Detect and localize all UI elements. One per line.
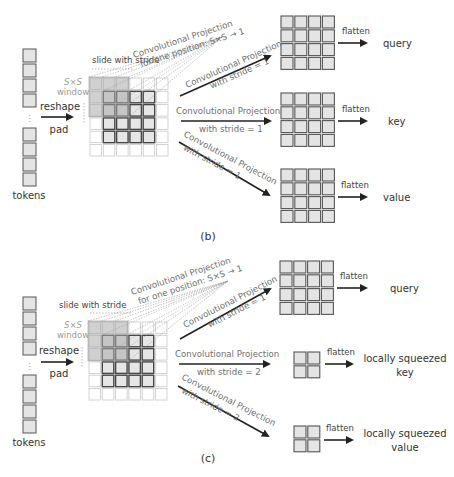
output-cell — [295, 93, 307, 105]
padding-cell — [156, 389, 168, 401]
feature-cell — [129, 349, 141, 361]
output-cell — [321, 261, 333, 273]
output-cell — [295, 169, 307, 181]
key-projection-label-line1: Convolutional Projection — [175, 349, 279, 359]
output-cell — [309, 197, 321, 209]
output-cell — [281, 210, 293, 222]
padding-cell — [156, 362, 168, 374]
value-output-label: value — [383, 192, 410, 203]
feature-cell — [130, 91, 142, 103]
feature-cell — [129, 362, 141, 374]
output-cell — [280, 275, 292, 287]
padding-cell — [103, 145, 115, 157]
padding-cell — [117, 145, 129, 157]
padding-cell — [130, 78, 142, 90]
query-output-label: query — [390, 283, 419, 294]
output-cell — [308, 440, 320, 452]
output-cell — [294, 302, 306, 314]
query-grid — [281, 16, 334, 69]
output-cell — [281, 107, 293, 119]
output-cell — [308, 426, 320, 438]
padding-cell — [143, 78, 155, 90]
token-column: ⋮ — [23, 49, 36, 186]
padding-cell — [157, 105, 169, 117]
output-cell — [294, 352, 306, 364]
output-cell — [295, 57, 307, 69]
feature-cell — [117, 118, 129, 129]
output-cell — [322, 121, 334, 133]
padding-cell — [90, 145, 102, 157]
token-cell — [23, 327, 36, 340]
output-cell — [309, 57, 321, 69]
flatten-label: flatten — [326, 423, 354, 433]
output-cell — [294, 261, 306, 273]
output-cell — [309, 93, 321, 105]
key-output-label: key — [388, 116, 406, 127]
key-output-label-line1: locally squeezed — [363, 353, 446, 364]
vertical-dots-icon: ⋮ — [25, 361, 34, 371]
padding-cell — [157, 118, 169, 129]
output-cell — [295, 121, 307, 133]
reshape-label: reshape — [39, 345, 79, 356]
output-cell — [321, 289, 333, 301]
padding-cell — [129, 389, 141, 401]
output-cell — [281, 134, 293, 146]
slide-label: slide with stride — [59, 300, 126, 310]
token-cell — [23, 420, 36, 433]
token-cell — [23, 64, 36, 77]
token-cell — [23, 297, 36, 310]
padding-cell — [156, 375, 168, 387]
output-cell — [321, 302, 333, 314]
feature-cell — [142, 349, 154, 361]
output-cell — [280, 302, 292, 314]
output-cell — [322, 57, 334, 69]
flatten-label: flatten — [341, 180, 369, 190]
output-cell — [281, 169, 293, 181]
feature-cell — [103, 131, 115, 143]
padding-cell — [157, 131, 169, 143]
feature-cell — [142, 375, 154, 387]
flatten-label: flatten — [342, 104, 370, 114]
output-cell — [322, 93, 334, 105]
feature-cell — [143, 105, 155, 117]
feature-cell — [102, 362, 114, 374]
output-cell — [295, 210, 307, 222]
flatten-label: flatten — [327, 347, 355, 357]
output-cell — [308, 261, 320, 273]
feature-cell — [143, 131, 155, 143]
output-cell — [281, 197, 293, 209]
key-projection-label-line1: Convolutional Projection — [176, 106, 280, 116]
tokens-label: tokens — [12, 437, 45, 448]
output-cell — [295, 107, 307, 119]
locally-squeezed-value-grid — [294, 426, 320, 452]
output-cell — [280, 261, 292, 273]
output-cell — [295, 44, 307, 56]
flatten-label: flatten — [342, 26, 370, 36]
output-cell — [309, 169, 321, 181]
feature-cell — [143, 118, 155, 129]
window-size-label: S×S — [64, 320, 83, 330]
key-grid — [281, 93, 334, 146]
key-projection-label-line2: with stride = 1 — [199, 124, 263, 134]
padding-cell — [130, 145, 142, 157]
token-cell — [23, 158, 36, 171]
token-column: ⋮ — [23, 297, 36, 433]
query-grid — [280, 261, 333, 314]
locally-squeezed-key-grid — [294, 352, 320, 378]
value-projection-label: Convolutional Projection with stride = 2 — [175, 372, 278, 439]
panel-caption: (c) — [201, 452, 216, 465]
output-cell — [294, 440, 306, 452]
token-cell — [23, 375, 36, 388]
feature-cell — [142, 362, 154, 374]
panel-caption: (b) — [200, 230, 216, 243]
output-cell — [308, 289, 320, 301]
output-cell — [322, 30, 334, 42]
padding-cell — [157, 91, 169, 103]
value-output-label-line2: value — [391, 442, 418, 453]
value-output-label-line1: locally squeezed — [363, 428, 446, 439]
token-cell — [23, 173, 36, 186]
token-cell — [23, 128, 36, 141]
padding-cell — [90, 118, 102, 129]
output-cell — [281, 30, 293, 42]
output-cell — [295, 197, 307, 209]
